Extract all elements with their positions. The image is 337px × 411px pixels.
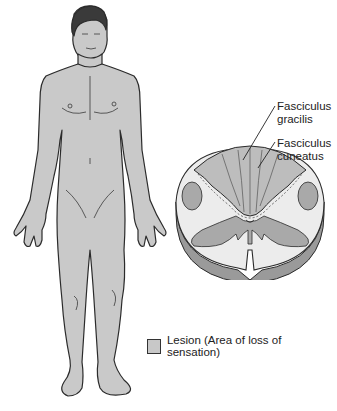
label-cuneatus-line2: cuneatus	[277, 150, 331, 163]
legend: Lesion (Area of loss of sensation)	[147, 334, 337, 358]
legend-text: Lesion (Area of loss of sensation)	[167, 334, 337, 358]
label-cuneatus-line1: Fasciculus	[277, 137, 331, 150]
left-lateral-oval	[182, 182, 202, 210]
label-fasciculus-cuneatus: Fasciculus cuneatus	[277, 137, 331, 163]
label-gracilis-line1: Fasciculus	[277, 100, 331, 113]
right-lateral-oval	[298, 182, 318, 210]
legend-swatch	[147, 339, 161, 354]
human-figure	[0, 0, 170, 411]
label-fasciculus-gracilis: Fasciculus gracilis	[277, 100, 331, 126]
label-gracilis-line2: gracilis	[277, 113, 331, 126]
